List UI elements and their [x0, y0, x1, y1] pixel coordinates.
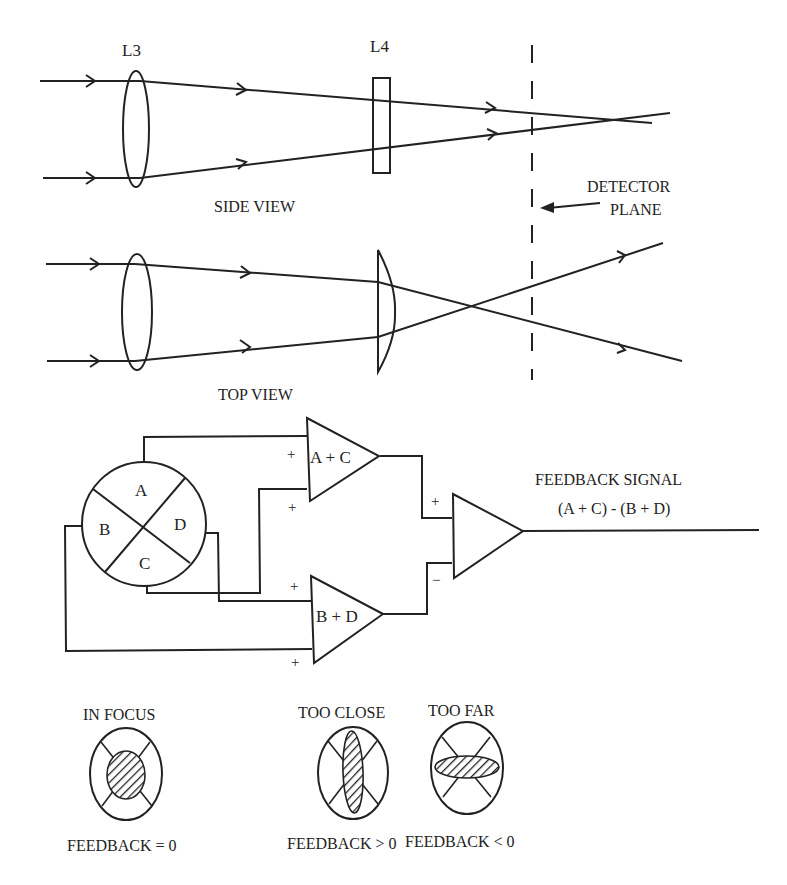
quadrant-detector: A B C D: [82, 462, 206, 586]
plus-sign: +: [287, 446, 295, 462]
plus-sign: +: [288, 499, 296, 515]
sum-amp-top-label: A + C: [310, 448, 351, 467]
lens-l4-top: [378, 250, 395, 372]
minus-sign: −: [432, 572, 440, 588]
focus-state-in-focus: IN FOCUS FEEDBACK = 0: [67, 706, 176, 854]
detector-label-line2: PLANE: [610, 201, 662, 218]
focus-state-too-close: TOO CLOSE FEEDBACK > 0: [287, 704, 396, 852]
beam-spot-circle: [107, 751, 145, 799]
lens-l3-top: [122, 254, 152, 370]
lens-l4-side: [373, 78, 390, 173]
top-view-rays: [46, 243, 682, 361]
top-view: TOP VIEW: [46, 243, 682, 403]
focus-state-caption: FEEDBACK = 0: [67, 837, 176, 854]
focus-state-caption: FEEDBACK < 0: [405, 833, 514, 850]
feedback-signal-label: FEEDBACK SIGNAL: [535, 471, 682, 488]
top-ray-arrow-icons: [90, 251, 625, 367]
focus-state-title: TOO FAR: [428, 702, 495, 719]
detector-label-line1: DETECTOR: [587, 178, 671, 195]
lens-l3: [123, 71, 149, 187]
quadrant-d-label: D: [174, 515, 186, 534]
difference-amp: [453, 494, 523, 578]
side-view-title: SIDE VIEW: [214, 198, 296, 215]
beam-spot-horizontal-ellipse: [435, 756, 499, 778]
side-view: L3 L4 DETECTOR PLANE SID: [40, 37, 671, 380]
lens-l3-label: L3: [122, 41, 141, 60]
quadrant-b-label: B: [99, 520, 110, 539]
beam-spot-vertical-ellipse: [342, 731, 365, 814]
focus-state-title: IN FOCUS: [83, 706, 155, 723]
feedback-signal-formula: (A + C) - (B + D): [558, 500, 670, 518]
side-view-rays: [40, 81, 670, 178]
plus-sign: +: [431, 493, 439, 509]
quadrant-a-label: A: [135, 481, 148, 500]
top-view-title: TOP VIEW: [218, 386, 294, 403]
sum-amp-bottom-label: B + D: [316, 607, 358, 626]
ray-arrow-icons: [86, 75, 496, 184]
plus-sign: +: [290, 578, 298, 594]
focus-state-caption: FEEDBACK > 0: [287, 835, 396, 852]
detector-pointer-arrow: [540, 202, 600, 213]
astigmatic-focus-diagram: L3 L4 DETECTOR PLANE SID: [0, 0, 787, 885]
lens-l4-label: L4: [370, 37, 389, 56]
quad-detector-circuit: A B C D A + C B + D +: [65, 418, 759, 670]
quadrant-c-label: C: [139, 554, 150, 573]
plus-sign: +: [291, 654, 299, 670]
focus-state-title: TOO CLOSE: [298, 704, 385, 721]
focus-states: IN FOCUS FEEDBACK = 0 TOO CLOSE FEEDBACK…: [67, 702, 514, 854]
focus-state-too-far: TOO FAR FEEDBACK < 0: [405, 702, 514, 850]
